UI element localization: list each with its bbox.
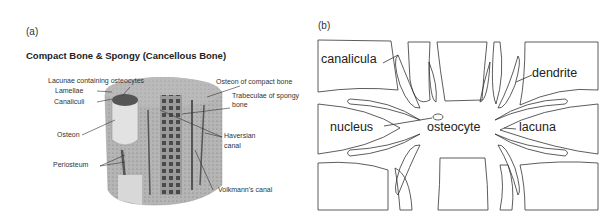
label-osteocyte: osteocyte [427,120,481,134]
label-dendrite: dendrite [532,66,577,80]
osteocyte-diagram [0,0,612,224]
label-nucleus: nucleus [330,120,373,134]
label-lacuna: lacuna [519,120,556,134]
label-canalicula: canalicula [321,52,377,66]
